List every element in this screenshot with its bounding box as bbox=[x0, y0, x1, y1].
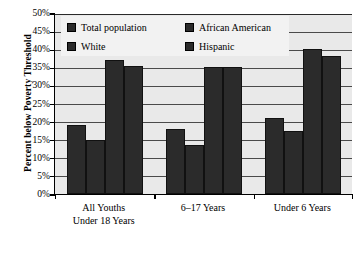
legend-item: White bbox=[67, 37, 185, 56]
y-axis-tick-label: 10% bbox=[33, 154, 50, 164]
y-axis-tick bbox=[50, 158, 55, 159]
y-axis-tick-label: 5% bbox=[37, 172, 50, 182]
y-axis-tick-label: 40% bbox=[33, 45, 50, 55]
legend-item: African American bbox=[185, 18, 289, 37]
bar bbox=[105, 60, 124, 194]
x-axis-category-label: 6–17 Years bbox=[153, 202, 252, 215]
x-axis-tick bbox=[154, 194, 155, 199]
x-axis-tick bbox=[55, 194, 56, 199]
y-axis-tick-label: 0% bbox=[37, 190, 50, 200]
bar bbox=[223, 67, 242, 194]
gridline bbox=[55, 14, 352, 15]
bar bbox=[284, 131, 303, 194]
bar bbox=[303, 49, 322, 194]
bar bbox=[86, 140, 105, 194]
y-axis-tick bbox=[50, 13, 55, 14]
y-axis-tick-label: 35% bbox=[33, 63, 50, 73]
x-axis-category-line: Under 6 Years bbox=[253, 202, 352, 215]
bar bbox=[204, 67, 223, 194]
bar bbox=[322, 56, 341, 194]
x-axis-category-line: 6–17 Years bbox=[153, 202, 252, 215]
legend-item: Total population bbox=[67, 18, 185, 37]
y-axis-tick-label: 50% bbox=[33, 9, 50, 19]
legend-item-label: Hispanic bbox=[199, 41, 235, 52]
y-axis-tick bbox=[50, 32, 55, 33]
legend-swatch-icon bbox=[67, 23, 76, 32]
bar bbox=[67, 125, 86, 194]
y-axis-tick bbox=[50, 104, 55, 105]
x-axis-category-line: All Youths bbox=[54, 202, 153, 215]
y-axis-tick-label: 15% bbox=[33, 136, 50, 146]
y-axis-tick bbox=[50, 140, 55, 141]
y-axis-tick bbox=[50, 122, 55, 123]
bar bbox=[124, 66, 143, 195]
x-axis-category-label: Under 6 Years bbox=[253, 202, 352, 215]
y-axis-tick bbox=[50, 68, 55, 69]
y-axis-tick-label: 30% bbox=[33, 81, 50, 91]
legend-swatch-icon bbox=[185, 23, 194, 32]
bar bbox=[166, 129, 185, 194]
legend-item-label: White bbox=[81, 41, 105, 52]
y-axis-tick bbox=[50, 176, 55, 177]
x-axis-tick bbox=[254, 194, 255, 199]
y-axis-tick-labels: 0%5%10%15%20%25%30%35%40%45%50% bbox=[18, 14, 50, 195]
y-axis-tick-label: 45% bbox=[33, 27, 50, 37]
x-axis-tick bbox=[352, 194, 353, 199]
legend-swatch-icon bbox=[67, 42, 76, 51]
chart-legend: Total populationAfrican AmericanWhiteHis… bbox=[61, 16, 289, 56]
bar bbox=[265, 118, 284, 194]
legend-item-label: Total population bbox=[81, 22, 147, 33]
legend-swatch-icon bbox=[185, 42, 194, 51]
bar-chart-figure: Percent below Poverty Threshold 0%5%10%1… bbox=[0, 0, 364, 255]
y-axis-tick bbox=[50, 50, 55, 51]
x-axis-category-label: All YouthsUnder 18 Years bbox=[54, 202, 153, 227]
y-axis-tick-label: 20% bbox=[33, 118, 50, 128]
bar bbox=[185, 145, 204, 194]
y-axis-tick bbox=[50, 86, 55, 87]
y-axis-tick-label: 25% bbox=[33, 100, 50, 110]
legend-item-label: African American bbox=[199, 22, 271, 33]
x-axis-category-line: Under 18 Years bbox=[54, 215, 153, 228]
legend-item: Hispanic bbox=[185, 37, 289, 56]
